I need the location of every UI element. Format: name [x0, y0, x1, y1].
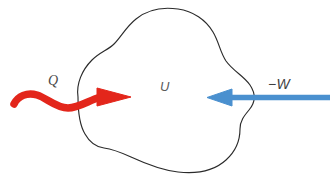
work-label: −W [268, 77, 290, 91]
thermodynamics-diagram: Q U −W [0, 0, 331, 180]
internal-energy-label: U [160, 80, 169, 93]
heat-label: Q [48, 74, 58, 88]
